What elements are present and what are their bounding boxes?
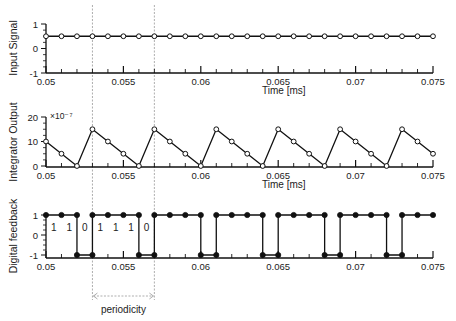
data-point: [214, 34, 219, 39]
data-point: [121, 212, 126, 217]
data-point: [136, 34, 141, 39]
y-tick-label: -1: [30, 250, 38, 261]
data-point: [260, 164, 265, 169]
x-tick-label: 0.065: [266, 261, 290, 272]
bit-label: 1: [66, 222, 72, 233]
data-point: [245, 212, 250, 217]
data-point: [338, 252, 343, 257]
data-point: [43, 212, 48, 217]
data-point: [245, 34, 250, 39]
data-point: [307, 151, 312, 156]
data-point: [75, 34, 80, 39]
y-axis-label: Input Signal: [7, 20, 19, 75]
data-point: [152, 127, 157, 132]
x-tick-label: 0.055: [112, 261, 136, 272]
data-point: [198, 212, 203, 217]
data-point: [214, 212, 219, 217]
figure: 10-1Input Signal0.050.0550.060.0650.070.…: [0, 0, 456, 321]
y-scale-label: ×10⁻⁷: [50, 111, 73, 121]
data-point: [59, 151, 64, 156]
data-point: [106, 139, 111, 144]
data-point: [338, 34, 343, 39]
bit-label: 1: [51, 222, 57, 233]
data-point: [121, 151, 126, 156]
data-point: [322, 252, 327, 257]
panel-integrator-output: 20100Integrator Output×10⁻⁷0.050.0550.06…: [7, 102, 445, 190]
y-tick-label: 1: [33, 19, 38, 30]
data-point: [136, 164, 141, 169]
data-point: [291, 212, 296, 217]
data-point: [369, 34, 374, 39]
y-axis-label: Integrator Output: [7, 102, 19, 181]
data-point: [136, 212, 141, 217]
data-point: [183, 34, 188, 39]
data-point: [90, 212, 95, 217]
data-point: [415, 34, 420, 39]
data-point: [121, 34, 126, 39]
data-point: [260, 34, 265, 39]
panel-digital-feedback: 10-1Digital feedback0.050.0550.060.0650.…: [7, 198, 445, 273]
x-tick-label: 0.055: [112, 170, 136, 181]
data-point: [322, 164, 327, 169]
y-axis-label: Digital feedback: [7, 198, 19, 273]
data-point: [384, 34, 389, 39]
data-point: [431, 151, 436, 156]
y-tick-label: 20: [27, 112, 38, 123]
bit-label: 0: [144, 222, 150, 233]
data-point: [214, 252, 219, 257]
y-tick-label: 0: [33, 230, 38, 241]
y-tick-label: 10: [27, 136, 38, 147]
data-point: [276, 252, 281, 257]
x-axis-label: Time [ms]: [262, 85, 306, 96]
data-point: [353, 212, 358, 217]
x-tick-label: 0.075: [421, 170, 445, 181]
data-point: [276, 34, 281, 39]
data-point: [291, 34, 296, 39]
x-axis-label: Time [ms]: [262, 179, 306, 190]
data-point: [105, 212, 110, 217]
data-point: [400, 127, 405, 132]
data-point: [353, 139, 358, 144]
data-point: [229, 34, 234, 39]
x-tick-label: 0.06: [192, 261, 211, 272]
bit-label: 0: [82, 222, 88, 233]
data-point: [384, 164, 389, 169]
data-point: [245, 151, 250, 156]
data-point: [415, 212, 420, 217]
data-point: [291, 139, 296, 144]
data-point: [90, 127, 95, 132]
data-point: [167, 139, 172, 144]
data-point: [106, 34, 111, 39]
bit-label: 1: [128, 222, 134, 233]
data-point: [75, 164, 80, 169]
data-point: [338, 212, 343, 217]
data-point: [276, 127, 281, 132]
panel-input-signal: 10-1Input Signal0.050.0550.060.0650.070.…: [7, 19, 445, 97]
chart-canvas: 10-1Input Signal0.050.0550.060.0650.070.…: [0, 0, 456, 321]
data-point: [90, 34, 95, 39]
x-tick-label: 0.05: [37, 170, 56, 181]
data-point: [322, 212, 327, 217]
data-point: [167, 212, 172, 217]
data-point: [152, 252, 157, 257]
y-tick-label: 0: [33, 43, 38, 54]
data-point: [384, 252, 389, 257]
data-point: [183, 151, 188, 156]
series-line: [46, 129, 433, 166]
data-point: [183, 212, 188, 217]
data-point: [368, 212, 373, 217]
data-point: [229, 139, 234, 144]
data-point: [431, 34, 436, 39]
data-point: [44, 34, 49, 39]
data-point: [198, 164, 203, 169]
data-point: [152, 34, 157, 39]
data-point: [353, 34, 358, 39]
x-tick-label: 0.075: [421, 76, 445, 87]
data-point: [399, 212, 404, 217]
data-point: [260, 212, 265, 217]
data-point: [198, 34, 203, 39]
data-point: [399, 252, 404, 257]
data-point: [59, 34, 64, 39]
periodicity-annotation: periodicity: [93, 293, 153, 315]
x-tick-label: 0.06: [192, 170, 211, 181]
